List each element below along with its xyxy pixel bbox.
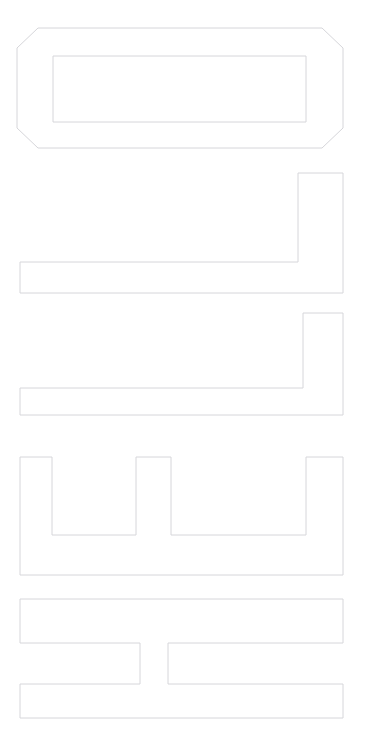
l-shape-block-lower [20, 313, 343, 415]
z-shape-block [20, 599, 343, 718]
comb-crenellated-block [20, 457, 343, 575]
chamfered-frame-outer [17, 28, 343, 148]
chamfered-frame-inner [53, 56, 306, 122]
l-shape-block-upper [20, 173, 343, 293]
outline-shape-layer [0, 0, 365, 749]
placeholder-canvas: Wireframe Outline Placeholders [0, 0, 365, 749]
